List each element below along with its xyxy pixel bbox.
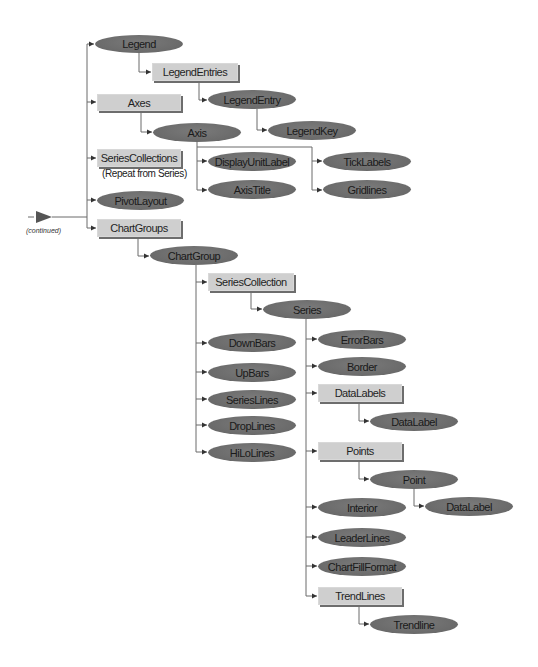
node-pivot-layout[interactable]: PivotLayout — [97, 191, 184, 210]
node-series-collections[interactable]: SeriesCollections — [97, 149, 181, 167]
node-gridlines[interactable]: Gridlines — [323, 180, 411, 199]
node-legend-entries[interactable]: LegendEntries — [152, 63, 238, 81]
node-interior[interactable]: Interior — [318, 498, 406, 517]
node-error-bars[interactable]: ErrorBars — [318, 330, 406, 349]
node-axes[interactable]: Axes — [97, 94, 181, 111]
object-model-diagram: (continued) Legend LegendEntries LegendE… — [0, 0, 538, 667]
node-border[interactable]: Border — [318, 357, 406, 376]
node-series-collection[interactable]: SeriesCollection — [208, 273, 294, 291]
node-leader-lines[interactable]: LeaderLines — [318, 528, 406, 547]
node-axis[interactable]: Axis — [153, 123, 241, 142]
node-tick-labels[interactable]: TickLabels — [323, 152, 411, 171]
node-legend[interactable]: Legend — [95, 35, 183, 53]
repeat-note: (Repeat from Series) — [102, 168, 187, 179]
node-up-bars[interactable]: UpBars — [208, 363, 296, 382]
node-data-labels[interactable]: DataLabels — [318, 384, 402, 402]
node-series-lines[interactable]: SeriesLines — [208, 390, 296, 409]
node-data-label-1[interactable]: DataLabel — [370, 412, 458, 431]
node-hilo-lines[interactable]: HiLoLines — [208, 443, 296, 462]
node-chart-groups[interactable]: ChartGroups — [97, 219, 181, 237]
node-trend-lines[interactable]: TrendLines — [318, 587, 402, 605]
continued-arrow-icon — [36, 211, 52, 223]
node-points[interactable]: Points — [318, 442, 402, 460]
node-legend-entry[interactable]: LegendEntry — [208, 90, 296, 109]
node-chart-fill-format[interactable]: ChartFillFormat — [318, 557, 406, 576]
node-chart-group[interactable]: ChartGroup — [150, 246, 238, 265]
node-drop-lines[interactable]: DropLines — [208, 416, 296, 435]
node-down-bars[interactable]: DownBars — [208, 333, 296, 352]
node-series[interactable]: Series — [263, 300, 351, 319]
node-trendline[interactable]: Trendline — [370, 615, 458, 634]
node-point[interactable]: Point — [370, 470, 458, 489]
node-legend-key[interactable]: LegendKey — [268, 121, 356, 140]
continued-label: (continued) — [26, 227, 61, 234]
node-axis-title[interactable]: AxisTitle — [208, 180, 296, 199]
node-display-unit-label[interactable]: DisplayUnitLabel — [208, 152, 296, 171]
node-data-label-2[interactable]: DataLabel — [425, 497, 513, 516]
